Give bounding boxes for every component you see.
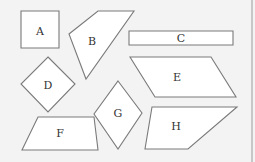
shape-f: F [22,117,98,150]
shapes-diagram: ABCDEFGH [0,0,255,162]
shape-label: B [88,35,96,48]
shape-d: D [21,57,75,112]
shape-c: C [129,31,233,45]
shape-g: G [94,81,142,149]
shape-label: E [173,71,181,84]
shape-label: G [114,107,123,120]
parallelogram-outline [130,57,236,97]
shape-label: D [44,79,53,92]
shape-b: B [69,11,134,79]
shape-e: E [130,57,236,97]
quadrilateral-outline [145,107,237,149]
shape-a: A [21,11,59,48]
shape-h: H [145,107,237,149]
shape-label: F [56,127,64,140]
shape-label: A [35,25,45,38]
quadrilateral-outline [69,11,134,79]
shape-label: H [171,120,181,133]
shape-label: C [177,32,185,45]
diagram-svg: ABCDEFGH [0,0,255,162]
